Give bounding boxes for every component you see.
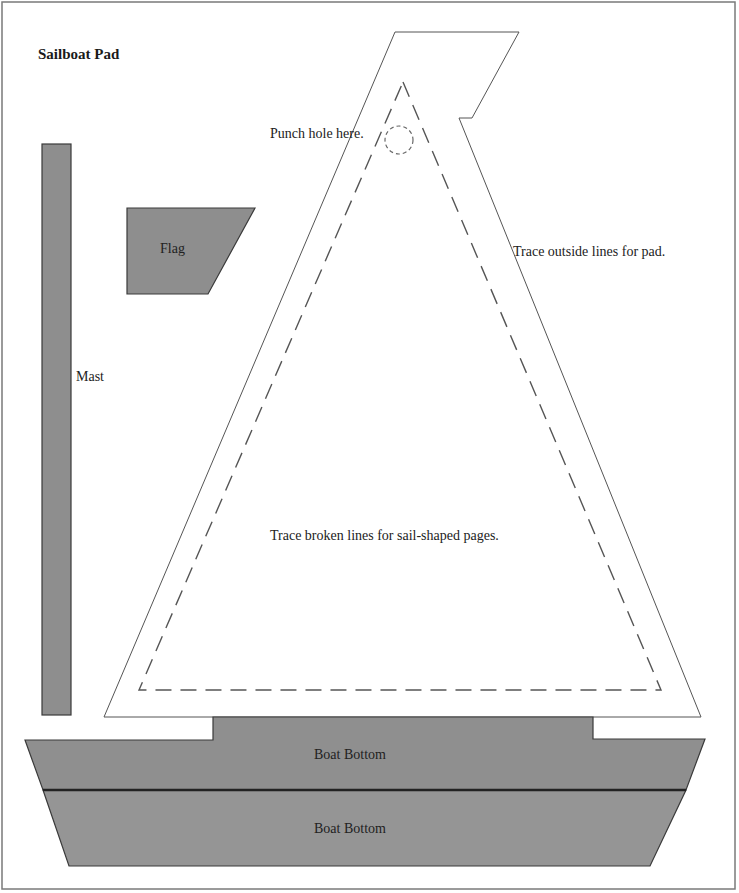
mast-piece [42,144,71,715]
flag-label: Flag [160,241,185,257]
punch-hole-note: Punch hole here. [270,126,364,142]
outside-lines-note: Trace outside lines for pad. [513,244,665,260]
mast-label: Mast [76,369,104,385]
sailboat-pad-page: Sailboat Pad Mast Flag Punch hole here. … [0,0,739,893]
sail-outline [104,32,701,717]
boat-bottom-label-1: Boat Bottom [314,747,386,763]
flag-piece [127,208,255,294]
broken-lines-note: Trace broken lines for sail-shaped pages… [270,528,499,544]
page-title: Sailboat Pad [38,46,119,63]
boat-bottom-label-2: Boat Bottom [314,821,386,837]
